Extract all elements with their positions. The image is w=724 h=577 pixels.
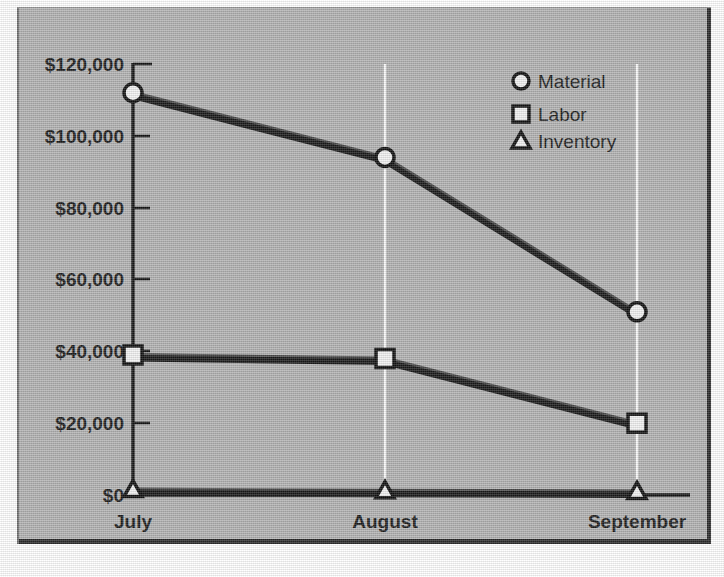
chart-svg: $120,000 $100,000 $80,000 $60,000 $40,00… (0, 0, 724, 577)
marker-labor-september (628, 414, 646, 432)
y-tick-label-80000: $80,000 (55, 198, 124, 219)
circle-marker-icon (513, 73, 529, 89)
y-tick-label-120000: $120,000 (45, 54, 124, 75)
series-inventory (124, 481, 646, 499)
legend-label-labor: Labor (538, 104, 587, 125)
square-marker-icon (513, 106, 529, 122)
y-tick-label-20000: $20,000 (55, 413, 124, 434)
y-tick-label-100000: $100,000 (45, 126, 124, 147)
y-tick-label-40000: $40,000 (55, 341, 124, 362)
line-chart-figure: $120,000 $100,000 $80,000 $60,000 $40,00… (0, 0, 724, 577)
legend-item-inventory[interactable]: Inventory (512, 131, 617, 152)
marker-material-july (124, 84, 142, 102)
y-axis (133, 63, 152, 496)
y-axis-tick-labels: $120,000 $100,000 $80,000 $60,000 $40,00… (45, 54, 124, 506)
y-tick-label-60000: $60,000 (55, 269, 124, 290)
x-label-august: August (352, 511, 418, 532)
legend-item-material[interactable]: Material (513, 71, 606, 92)
marker-material-august (376, 148, 394, 166)
chart-legend: Material Labor Inventory (512, 71, 617, 152)
marker-inventory-july (124, 481, 142, 497)
marker-material-september (628, 303, 646, 321)
marker-labor-august (376, 350, 394, 368)
x-label-july: July (114, 511, 152, 532)
triangle-marker-icon (512, 132, 530, 148)
legend-item-labor[interactable]: Labor (513, 104, 587, 125)
x-axis-category-labels: July August September (114, 511, 687, 532)
marker-inventory-august (376, 482, 394, 498)
x-label-september: September (588, 511, 687, 532)
gridlines-vertical (133, 64, 637, 495)
legend-label-material: Material (538, 71, 606, 92)
marker-inventory-september (628, 482, 646, 498)
marker-labor-july (124, 346, 142, 364)
y-tick-label-0: $0 (103, 485, 124, 506)
legend-label-inventory: Inventory (538, 131, 617, 152)
